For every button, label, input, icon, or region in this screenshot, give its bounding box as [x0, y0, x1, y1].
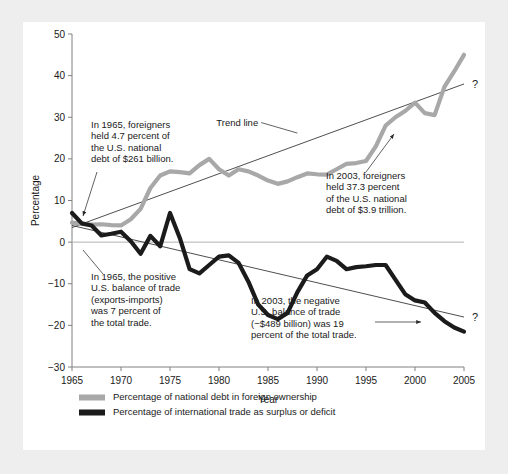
chart-page: −30−20−100102030405019651970197519801985…: [0, 0, 508, 474]
legend-label-0: Percentage of national debt in foreign o…: [113, 391, 317, 402]
trend-question-mark-debt-trend: ?: [472, 78, 478, 90]
annotation-debt-1965: In 1965, foreignersheld 4.7 percent ofth…: [91, 119, 173, 164]
x-tick-label-0: 1965: [61, 375, 84, 386]
annotation-trade-2003: In 2003, the negativeU.S. balance of tra…: [251, 295, 357, 340]
y-axis-title: Percentage: [30, 174, 41, 226]
x-tick-label-2: 1975: [159, 375, 182, 386]
chart-card: −30−20−100102030405019651970197519801985…: [23, 22, 485, 450]
y-tick-label-8: 50: [54, 29, 66, 40]
x-tick-label-6: 1995: [355, 375, 378, 386]
trend-line-leader: [261, 123, 297, 133]
y-tick-label-0: −30: [48, 362, 65, 373]
x-tick-label-4: 1985: [257, 375, 280, 386]
y-tick-label-6: 30: [54, 112, 66, 123]
y-tick-label-5: 20: [54, 153, 66, 164]
annotation-debt-2003: In 2003, foreignersheld 37.3 percentof t…: [326, 170, 407, 215]
x-tick-label-8: 2005: [453, 375, 476, 386]
x-tick-label-7: 2000: [404, 375, 427, 386]
y-tick-label-1: −20: [48, 320, 65, 331]
y-tick-label-2: −10: [48, 278, 65, 289]
legend-label-1: Percentage of international trade as sur…: [113, 406, 336, 417]
y-tick-label-3: 0: [59, 237, 65, 248]
x-tick-label-3: 1980: [208, 375, 231, 386]
annotation-leader-debt-1965: [83, 172, 97, 216]
annotation-trade-1965: In 1965, the positiveU.S. balance of tra…: [90, 271, 180, 328]
trend-line-label: Trend line: [216, 117, 258, 128]
debt-and-trade-line-chart: −30−20−100102030405019651970197519801985…: [23, 22, 485, 450]
trend-question-mark-trade-trend: ?: [472, 311, 478, 323]
x-tick-label-1: 1970: [110, 375, 133, 386]
legend-swatch-0: [79, 395, 105, 401]
y-tick-label-7: 40: [54, 70, 66, 81]
y-tick-label-4: 10: [54, 195, 66, 206]
legend-swatch-1: [79, 410, 105, 416]
x-tick-label-5: 1990: [306, 375, 329, 386]
